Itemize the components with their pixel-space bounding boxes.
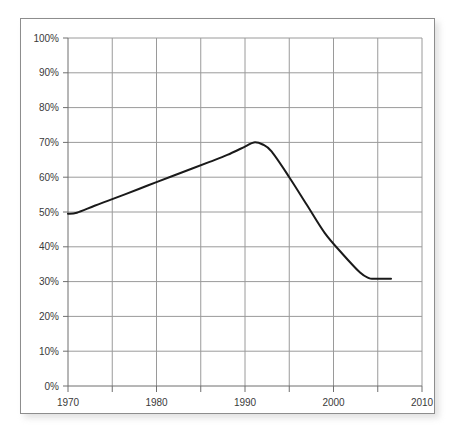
- y-axis-tick-labels: 0%10%20%30%40%50%60%70%80%90%100%: [33, 33, 59, 392]
- y-axis-tick-label: 10%: [39, 346, 59, 357]
- x-axis-ticks: [68, 386, 422, 392]
- y-axis-tick-label: 0%: [45, 381, 60, 392]
- y-axis-tick-label: 50%: [39, 207, 59, 218]
- y-axis-ticks: [63, 38, 68, 386]
- x-axis-tick-label: 1990: [234, 397, 257, 408]
- y-axis-tick-label: 40%: [39, 241, 59, 252]
- y-axis-tick-label: 80%: [39, 102, 59, 113]
- x-axis-tick-labels: 19701980199020002010: [57, 397, 434, 408]
- figure-frame: 0%10%20%30%40%50%60%70%80%90%100% 197019…: [20, 18, 435, 414]
- y-axis-tick-label: 70%: [39, 137, 59, 148]
- y-axis-tick-label: 20%: [39, 311, 59, 322]
- y-axis-tick-label: 100%: [33, 33, 59, 44]
- x-axis-tick-label: 2000: [322, 397, 345, 408]
- y-axis-tick-label: 30%: [39, 276, 59, 287]
- y-axis-tick-label: 60%: [39, 172, 59, 183]
- x-axis-tick-label: 2010: [411, 397, 434, 408]
- y-axis-tick-label: 90%: [39, 67, 59, 78]
- line-chart: 0%10%20%30%40%50%60%70%80%90%100% 197019…: [21, 19, 434, 413]
- figure-root: 0%10%20%30%40%50%60%70%80%90%100% 197019…: [0, 0, 451, 434]
- x-axis-tick-label: 1980: [145, 397, 168, 408]
- x-axis-tick-label: 1970: [57, 397, 80, 408]
